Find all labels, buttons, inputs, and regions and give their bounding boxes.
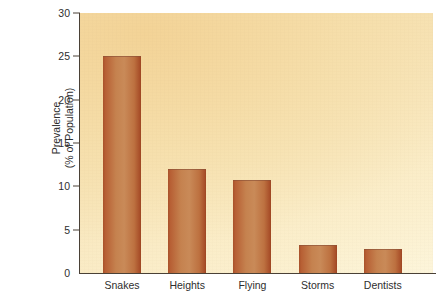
x-axis-tick-label: Dentists (364, 279, 402, 291)
bar (103, 56, 141, 273)
bar (168, 169, 206, 273)
x-axis-line (79, 273, 436, 274)
y-axis-tick-label: 0 (64, 267, 70, 279)
x-axis-tick-label: Snakes (104, 279, 139, 291)
bar (299, 245, 337, 273)
y-axis-tick-label: 25 (58, 50, 70, 62)
x-axis-tick-label: Storms (301, 279, 334, 291)
x-axis-tick-labels: SnakesHeightsFlyingStormsDentists (80, 279, 433, 301)
y-axis-tick-label: 20 (58, 94, 70, 106)
bar-chart: Prevalence (% of Population) 05101520253… (0, 0, 445, 307)
y-axis-tick-label: 5 (64, 224, 70, 236)
y-axis-tick-labels: 051015202530 (44, 0, 70, 307)
y-axis-line (79, 13, 80, 274)
x-axis-tick-label: Heights (169, 279, 205, 291)
y-axis-tick-label: 10 (58, 180, 70, 192)
plot-area (80, 13, 433, 273)
bar (364, 249, 402, 273)
y-axis-tick-label: 30 (58, 7, 70, 19)
bar (233, 180, 271, 273)
x-axis-tick-label: Flying (238, 279, 266, 291)
y-axis-tick-label: 15 (58, 137, 70, 149)
